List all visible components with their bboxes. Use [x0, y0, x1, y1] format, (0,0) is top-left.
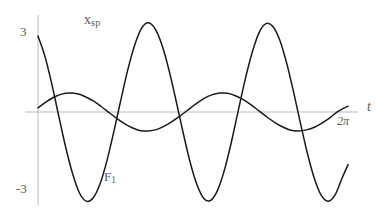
y-tick-label-3: 3 [20, 25, 27, 38]
x-axis-label: t [367, 100, 371, 114]
axes-group [25, 15, 358, 205]
plot-figure: 3 -3 xsp F1 t 2π [0, 0, 391, 218]
y-tick-label-neg3: -3 [16, 182, 27, 195]
curve-label-xsp-base: x [84, 12, 91, 27]
x-tick-label-2pi: 2π [337, 115, 349, 127]
curve-label-xsp-sub: sp [91, 17, 101, 28]
curve-label-xsp: xsp [84, 13, 101, 28]
plot-canvas [0, 0, 391, 218]
curve-label-f1-sub: 1 [111, 175, 116, 185]
curve-label-f1: F1 [104, 170, 116, 185]
